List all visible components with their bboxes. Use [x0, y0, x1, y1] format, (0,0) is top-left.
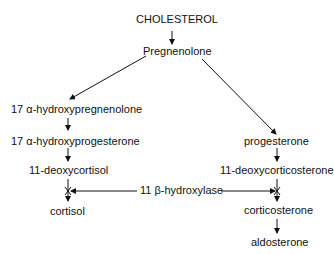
node-cholesterol: CHOLESTEROL: [136, 13, 218, 26]
node-cortisol: cortisol: [50, 205, 85, 218]
node-corticosterone: corticosterone: [244, 204, 313, 217]
node-aldosterone: aldosterone: [251, 236, 309, 249]
node-deoxycortisol: 11-deoxycortisol: [29, 164, 108, 177]
node-progesterone: progesterone: [244, 135, 309, 148]
node-pregnenolone: Pregnenolone: [143, 45, 212, 58]
arrow-pregnenolone-progesterone: [202, 59, 276, 134]
node-deoxycorticosterone: 11-deoxycorticosterone: [220, 164, 334, 177]
enzyme-label: 11 β-hydroxylase: [140, 184, 223, 197]
arrow-pregnenolone-hydroxypregnenolone: [70, 56, 146, 99]
node-hydroxyprogesterone: 17 α-hydroxyprogesterone: [11, 135, 140, 148]
node-hydroxypregnenolone: 17 α-hydroxypregnenolone: [11, 103, 142, 116]
